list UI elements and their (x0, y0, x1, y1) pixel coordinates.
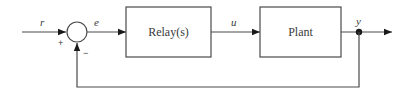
relay-block-label: Relay(s) (148, 25, 189, 39)
reference-signal-label: r (40, 16, 45, 28)
minus-sign: − (83, 48, 88, 58)
plant-block-label: Plant (288, 25, 313, 39)
relay-feedback-diagram: r + − e Relay(s) u Plant y (0, 0, 416, 93)
error-signal-label: e (94, 16, 99, 28)
control-signal-label: u (231, 16, 237, 28)
summing-junction (67, 22, 87, 42)
output-signal-label: y (355, 15, 361, 27)
plus-sign: + (58, 38, 63, 48)
